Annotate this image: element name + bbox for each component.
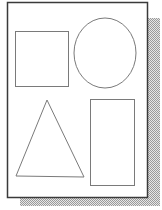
page-diagram: [0, 0, 162, 210]
